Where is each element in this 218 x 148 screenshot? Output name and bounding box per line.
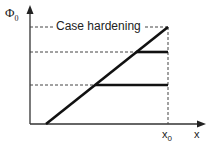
y-axis-arrow-icon: [27, 5, 34, 14]
diagonal-line: [46, 27, 168, 124]
x-axis-label: x: [194, 129, 200, 140]
y-axis-subscript: 0: [15, 14, 19, 23]
y-axis-label: Φ0: [5, 6, 19, 23]
x0-marker-label: x0: [162, 129, 172, 143]
x0-subscript: 0: [168, 134, 172, 143]
x-axis-arrow-icon: [197, 121, 206, 128]
case-hardening-diagram: Case hardening Φ0 x0 x: [0, 0, 218, 148]
y-axis-symbol: Φ: [5, 5, 15, 20]
diagram-title: Case hardening: [54, 20, 143, 32]
